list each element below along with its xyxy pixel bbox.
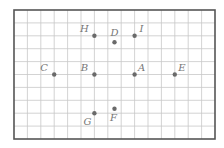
- point-label: H: [79, 23, 89, 34]
- point-marker: [52, 72, 56, 76]
- points-layer: ABCDEFGHI: [40, 23, 186, 127]
- point-label: B: [80, 62, 88, 73]
- point-f: F: [109, 106, 118, 122]
- point-marker: [132, 72, 136, 76]
- point-label: D: [109, 27, 118, 38]
- point-label: E: [177, 62, 186, 73]
- point-label: G: [83, 116, 91, 127]
- point-marker: [92, 72, 96, 76]
- point-label: I: [139, 23, 145, 34]
- point-marker: [173, 72, 177, 76]
- point-label: A: [137, 62, 145, 73]
- point-label: C: [40, 62, 48, 73]
- point-marker: [112, 40, 116, 44]
- point-marker: [92, 111, 96, 115]
- point-marker: [92, 34, 96, 38]
- point-marker: [132, 34, 136, 38]
- point-marker: [112, 106, 116, 110]
- grid-diagram: ABCDEFGHI: [0, 0, 224, 148]
- point-label: F: [109, 112, 118, 123]
- point-d: D: [109, 27, 118, 44]
